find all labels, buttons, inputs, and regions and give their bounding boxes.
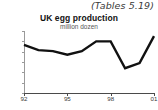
chart-subtitle: million dozen (0, 23, 158, 30)
x-axis-tick-mark (24, 93, 25, 96)
x-axis-tick-label: 01 (151, 96, 158, 102)
x-axis-tick-mark (111, 93, 112, 96)
plot-area: 92090088086084082080092959801 (24, 31, 154, 93)
y-axis-tick-mark (22, 83, 24, 84)
x-axis-tick-label: 95 (64, 96, 71, 102)
y-axis-tick-mark (22, 52, 24, 53)
x-axis-tick-label: 98 (107, 96, 114, 102)
series-line-uk-egg-production (24, 31, 154, 93)
table-reference-note: (Tables 5.19) (91, 0, 154, 11)
x-axis-tick-mark (154, 93, 155, 96)
chart-title: UK egg production (0, 13, 158, 23)
x-axis-tick-mark (67, 93, 68, 96)
y-axis-tick-mark (22, 72, 24, 73)
data-line (24, 36, 154, 68)
x-axis-line (24, 93, 154, 94)
chart-figure: (Tables 5.19) UK egg production million … (0, 0, 158, 110)
x-axis-tick-label: 92 (21, 96, 28, 102)
y-axis-tick-mark (22, 62, 24, 63)
y-axis-tick-mark (22, 31, 24, 32)
y-axis-tick-mark (22, 41, 24, 42)
